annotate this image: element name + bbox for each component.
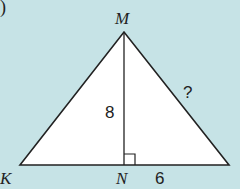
unknown-side-label: ? bbox=[183, 84, 192, 101]
height-label: 8 bbox=[105, 104, 114, 121]
vertex-label-n: N bbox=[116, 170, 127, 187]
vertex-label-k: K bbox=[0, 170, 11, 187]
triangle-diagram bbox=[0, 0, 240, 189]
vertex-label-m: M bbox=[115, 10, 129, 27]
base-segment-label: 6 bbox=[155, 170, 164, 187]
